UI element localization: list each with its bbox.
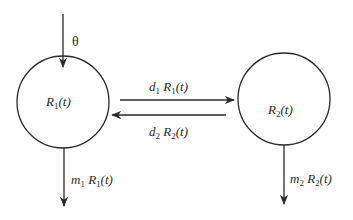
compartment-r2: R2(t) [238, 53, 330, 145]
compartment-r1: R1(t) [17, 56, 109, 148]
transfer-label-d2: d2 R2(t) [149, 124, 188, 141]
outflow-label-m2: m2 R2(t) [290, 171, 332, 188]
r1-label: R1(t) [45, 94, 71, 111]
outflow-label-m1: m1 R1(t) [71, 172, 113, 189]
r2-label: R2(t) [267, 102, 293, 119]
inflow-label: θ [72, 34, 79, 49]
compartment-diagram: θ R1(t) R2(t) d1 R1(t) d2 R2(t) m1 R1(t)… [0, 0, 353, 220]
transfer-label-d1: d1 R1(t) [149, 79, 188, 96]
